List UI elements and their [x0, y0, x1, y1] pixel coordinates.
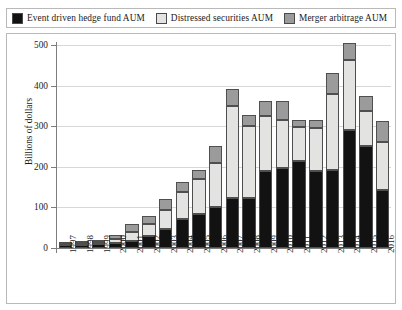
bar-segment-2013-2 [326, 73, 339, 93]
bar-segment-2011-2 [292, 120, 305, 127]
x-tick-label: 2013 [337, 235, 346, 253]
bar-2009 [259, 45, 272, 248]
bar-2005 [192, 45, 205, 248]
bar-segment-2009-1 [259, 116, 272, 171]
bar-segment-2003-1 [159, 210, 172, 229]
x-tick-label: 2002 [153, 235, 162, 253]
y-tick-label: 100 [14, 203, 48, 212]
y-axis-title: Billions of dollars [24, 98, 34, 165]
bar-segment-2002-2 [142, 216, 155, 225]
bar-segment-2007-2 [226, 89, 239, 106]
bar-segment-2010-1 [276, 120, 289, 169]
x-tick-label: 1999 [103, 235, 112, 253]
bar-segment-2016-2 [376, 121, 389, 143]
bar-2006 [209, 45, 222, 248]
x-tick-label: 2006 [220, 235, 229, 253]
bar-segment-2009-2 [259, 101, 272, 116]
bar-2001 [125, 45, 138, 248]
x-tick-label: 1998 [86, 235, 95, 253]
x-tick-label: 2003 [170, 235, 179, 253]
bar-2016 [376, 45, 389, 248]
bar-segment-2005-2 [192, 170, 205, 179]
plot-area: Billions of dollars [57, 45, 391, 248]
y-tick [51, 248, 56, 249]
bar-2011 [292, 45, 305, 248]
x-tick-label: 2008 [253, 235, 262, 253]
bar-segment-2003-2 [159, 199, 172, 210]
bar-segment-2004-2 [176, 182, 189, 192]
bar-segment-2014-2 [343, 43, 356, 60]
y-tick-label: 500 [14, 41, 48, 50]
gridline [57, 126, 391, 127]
bar-2007 [226, 45, 239, 248]
bar-2002 [142, 45, 155, 248]
bar-1997 [59, 45, 72, 248]
bar-segment-2016-1 [376, 142, 389, 190]
bar-2000 [109, 45, 122, 248]
y-tick [51, 207, 56, 208]
x-tick-label: 2007 [236, 235, 245, 253]
bar-segment-2013-1 [326, 94, 339, 170]
bar-segment-2008-2 [242, 115, 255, 126]
bar-segment-2004-1 [176, 192, 189, 219]
bar-2012 [309, 45, 322, 248]
x-tick-label: 2016 [387, 235, 396, 253]
x-tick-label: 2011 [303, 235, 312, 253]
bar-segment-2008-1 [242, 126, 255, 198]
bar-segment-2006-2 [209, 146, 222, 163]
x-tick-label: 2010 [286, 235, 295, 253]
bar-1999 [92, 45, 105, 248]
bar-segment-2015-0 [359, 146, 372, 248]
x-tick-label: 2012 [320, 235, 329, 253]
bar-2014 [343, 45, 356, 248]
bar-2010 [276, 45, 289, 248]
bar-segment-2012-1 [309, 128, 322, 171]
x-tick-label: 2000 [119, 235, 128, 253]
bar-1998 [75, 45, 88, 248]
bar-2013 [326, 45, 339, 248]
x-tick-label: 2004 [186, 235, 195, 253]
bar-segment-2015-1 [359, 111, 372, 146]
bar-segment-2007-1 [226, 106, 239, 199]
gridline [57, 45, 391, 46]
bar-segment-2006-1 [209, 163, 222, 208]
x-tick-label: 2015 [370, 235, 379, 253]
bar-segment-2011-1 [292, 127, 305, 160]
y-tick [51, 167, 56, 168]
bar-segment-2005-1 [192, 179, 205, 214]
bar-segment-2014-1 [343, 60, 356, 130]
bar-2003 [159, 45, 172, 248]
bar-segment-2012-2 [309, 120, 322, 128]
gridline [57, 86, 391, 87]
bar-segment-2015-2 [359, 96, 372, 111]
bar-2004 [176, 45, 189, 248]
y-tick-label: 0 [14, 244, 48, 253]
x-tick-label: 2014 [353, 235, 362, 253]
bar-2015 [359, 45, 372, 248]
x-tick-label: 2001 [136, 235, 145, 253]
x-tick-label: 1997 [69, 235, 78, 253]
bar-2008 [242, 45, 255, 248]
chart-figure: Event driven hedge fund AUM Distressed s… [0, 0, 402, 310]
bar-segment-2010-2 [276, 101, 289, 119]
y-tick [51, 86, 56, 87]
x-tick-label: 2009 [270, 235, 279, 253]
y-tick [51, 126, 56, 127]
x-tick-label: 2005 [203, 235, 212, 253]
y-tick-label: 400 [14, 82, 48, 91]
gridline [57, 167, 391, 168]
bar-segment-2014-0 [343, 130, 356, 248]
y-tick [51, 45, 56, 46]
gridline [57, 207, 391, 208]
bar-segment-2001-2 [125, 224, 138, 231]
